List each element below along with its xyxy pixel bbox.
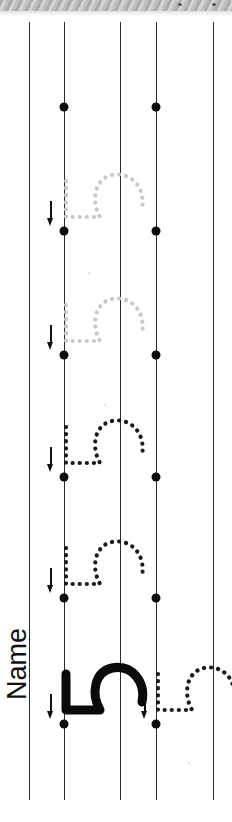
stroke-start-dot: [152, 103, 161, 112]
stroke-start-dot: [152, 720, 161, 729]
paper-speck-1: [88, 272, 90, 274]
stroke-start-dot: [60, 594, 69, 603]
scan-band-dot-1: [178, 3, 182, 6]
stroke-start-dot: [152, 473, 161, 482]
stroke-start-dot: [152, 227, 161, 236]
arrow-head: [47, 464, 53, 472]
stroke-start-dot: [60, 351, 69, 360]
dotted-trace-numeral-5: [60, 287, 152, 351]
arrow-head: [47, 711, 53, 719]
dotted-trace-numeral-5: [60, 409, 152, 473]
down-arrow-icon: [46, 447, 56, 473]
scanner-edge-band: [0, 0, 232, 11]
solid-numeral-5: [60, 656, 152, 720]
arrow-head: [141, 711, 147, 719]
scan-band-dot-2: [212, 3, 216, 6]
dotted-trace-numeral-5: [60, 163, 152, 227]
down-arrow-icon: [140, 694, 150, 720]
dotted-trace-numeral-5: [60, 530, 152, 594]
name-label: Name: [2, 628, 33, 700]
stroke-start-dot: [60, 103, 69, 112]
worksheet-page: Name: [0, 0, 232, 822]
down-arrow-icon: [46, 694, 56, 720]
down-arrow-icon: [46, 325, 56, 351]
stroke-start-dot: [60, 473, 69, 482]
down-arrow-icon: [46, 201, 56, 227]
arrow-head: [47, 218, 53, 226]
dotted-trace-numeral-5: [152, 656, 232, 720]
stroke-start-dot: [152, 594, 161, 603]
scanner-edge-fade: [0, 11, 232, 16]
stroke-start-dot: [60, 720, 69, 729]
stroke-start-dot: [152, 351, 161, 360]
arrow-head: [47, 585, 53, 593]
paper-speck-2: [104, 404, 106, 406]
down-arrow-icon: [46, 568, 56, 594]
arrow-head: [47, 342, 53, 350]
stroke-start-dot: [60, 227, 69, 236]
paper-speck-4: [188, 762, 190, 764]
